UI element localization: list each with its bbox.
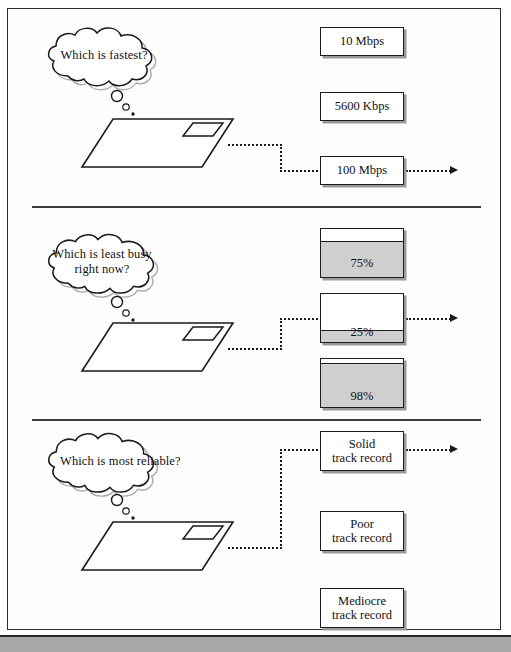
option-box-speed-1[interactable]: 10 Mbps xyxy=(320,27,404,56)
gauge-congestion-3[interactable]: 98% xyxy=(320,358,404,408)
option-box-speed-2[interactable]: 5600 Kbps xyxy=(320,92,404,121)
connector-reliability-out xyxy=(406,449,451,451)
section-divider-1 xyxy=(32,206,481,208)
option-label: 100 Mbps xyxy=(337,163,387,178)
network-plane-icon-congestion xyxy=(80,318,240,380)
thought-cloud-speed: Which is fastest? xyxy=(38,24,162,88)
option-label: Poor track record xyxy=(332,517,392,546)
page-bottom-bar xyxy=(0,635,511,652)
thought-cloud-reliability: Which is most reliable? xyxy=(38,429,162,495)
network-plane-icon-speed xyxy=(80,114,240,176)
section-divider-2 xyxy=(32,419,481,421)
option-label: 5600 Kbps xyxy=(335,99,390,114)
connector-congestion-h2 xyxy=(280,318,322,320)
connector-reliability-h2 xyxy=(280,449,322,451)
option-box-reliability-3[interactable]: Mediocre track record xyxy=(320,588,404,628)
option-label: 10 Mbps xyxy=(340,34,384,49)
connector-speed-h2 xyxy=(280,170,322,172)
connector-congestion-h1 xyxy=(228,348,282,350)
connector-speed-h1 xyxy=(228,144,282,146)
network-plane-icon-reliability xyxy=(80,517,240,579)
gauge-congestion-2-selected[interactable]: 25% xyxy=(320,293,404,343)
thought-cloud-text-congestion: Which is least busy right now? xyxy=(38,247,164,277)
thought-cloud-congestion: Which is least busy right now? xyxy=(38,230,162,296)
thought-cloud-text-speed: Which is fastest? xyxy=(38,48,166,63)
arrowhead-speed xyxy=(450,166,458,174)
connector-speed-v1 xyxy=(280,144,282,172)
connector-reliability-v1 xyxy=(280,449,282,549)
connector-reliability-h1 xyxy=(228,547,282,549)
gauge-value: 75% xyxy=(321,256,403,271)
arrowhead-congestion xyxy=(450,314,458,322)
option-label: Solid track record xyxy=(332,437,392,466)
thought-cloud-text-reliability: Which is most reliable? xyxy=(38,454,202,469)
connector-speed-out xyxy=(406,170,451,172)
connector-congestion-out xyxy=(406,318,451,320)
option-box-reliability-1-selected[interactable]: Solid track record xyxy=(320,431,404,471)
arrowhead-reliability xyxy=(450,445,458,453)
gauge-value: 25% xyxy=(321,325,403,340)
connector-congestion-v1 xyxy=(280,318,282,350)
option-box-reliability-2[interactable]: Poor track record xyxy=(320,511,404,551)
option-box-speed-3-selected[interactable]: 100 Mbps xyxy=(320,156,404,185)
gauge-value: 98% xyxy=(321,389,403,404)
figure-canvas: Which is fastest? 10 Mbps 5600 Kbps 100 … xyxy=(0,0,511,652)
option-label: Mediocre track record xyxy=(332,594,392,623)
gauge-congestion-1[interactable]: 75% xyxy=(320,228,404,278)
